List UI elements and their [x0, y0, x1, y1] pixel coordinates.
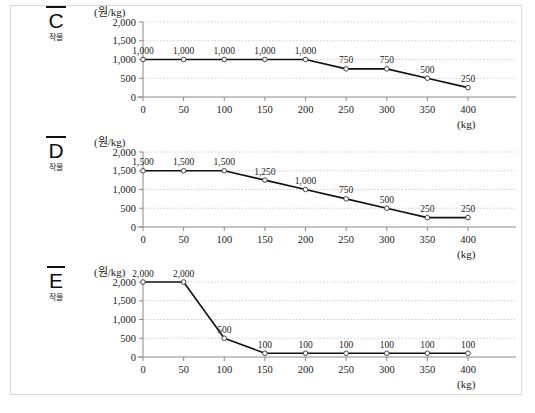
- data-point: [384, 67, 389, 72]
- data-point-label: 1,500: [214, 157, 236, 167]
- x-axis-unit: (kg): [457, 378, 475, 390]
- crop-word: 작물: [21, 163, 91, 173]
- figure-frame: C 작물 (원/kg) 05001,0001,5002,000050100150…: [10, 5, 522, 395]
- plot-area-c: 05001,0001,5002,000050100150200250300350…: [94, 20, 506, 110]
- x-tick-label: 50: [178, 234, 189, 245]
- x-tick-label: 150: [257, 234, 273, 245]
- data-point: [222, 336, 227, 341]
- data-point-label: 100: [298, 340, 313, 350]
- gridlines: [143, 152, 516, 208]
- x-tick-label: 100: [216, 234, 232, 245]
- line-chart-e: 05001,0001,5002,000050100150200250300350…: [94, 280, 506, 410]
- x-tick-label: 200: [298, 104, 314, 115]
- x-tick-label: 50: [178, 104, 189, 115]
- x-tick-label: 0: [140, 234, 145, 245]
- data-series: [143, 60, 468, 88]
- crop-word: 작물: [21, 33, 91, 43]
- data-point-label: 750: [380, 55, 395, 65]
- data-point-label: 250: [461, 74, 476, 84]
- data-point-label: 1,000: [295, 176, 317, 186]
- x-tick-label: 400: [460, 104, 476, 115]
- x-tick-label: 400: [460, 234, 476, 245]
- x-tick-label: 350: [420, 234, 436, 245]
- x-tick-label: 200: [298, 234, 314, 245]
- x-tick-label: 150: [257, 104, 273, 115]
- plot-area-d: 05001,0001,5002,000050100150200250300350…: [94, 150, 506, 240]
- data-point-label: 100: [380, 340, 395, 350]
- data-point: [384, 206, 389, 211]
- data-point: [425, 76, 430, 81]
- data-point: [303, 351, 308, 356]
- point-labels: 1,5001,5001,5001,2501,000750500250250: [132, 157, 475, 214]
- y-tick-label: 1,000: [112, 314, 136, 325]
- data-point-label: 100: [420, 340, 435, 350]
- y-tick-label: 0: [131, 222, 136, 233]
- data-point-label: 1,000: [254, 46, 276, 56]
- plot-area-e: 05001,0001,5002,000050100150200250300350…: [94, 280, 506, 370]
- data-point: [344, 351, 349, 356]
- y-tick-label: 500: [120, 73, 136, 84]
- data-point: [344, 67, 349, 72]
- data-point-label: 250: [461, 204, 476, 214]
- data-point-label: 500: [217, 325, 232, 335]
- data-point: [466, 215, 471, 220]
- data-point: [384, 351, 389, 356]
- data-point: [425, 351, 430, 356]
- data-point: [181, 57, 186, 62]
- gridlines: [143, 282, 516, 338]
- data-point-label: 1,000: [132, 46, 154, 56]
- x-tick-label: 100: [216, 364, 232, 375]
- x-tick-label: 350: [420, 364, 436, 375]
- x-axis-unit: (kg): [457, 248, 475, 260]
- line-chart-c: 05001,0001,5002,000050100150200250300350…: [94, 20, 506, 150]
- data-point: [181, 168, 186, 173]
- x-tick-label: 300: [379, 364, 395, 375]
- crop-label-e: E 작물: [21, 266, 91, 303]
- x-tick-label: 200: [298, 364, 314, 375]
- data-point: [141, 168, 146, 173]
- data-point: [222, 57, 227, 62]
- data-point-label: 500: [420, 65, 435, 75]
- x-axis-unit: (kg): [457, 118, 475, 130]
- x-tick-label: 100: [216, 104, 232, 115]
- data-point-label: 1,500: [173, 157, 195, 167]
- y-tick-label: 0: [131, 92, 136, 103]
- y-tick-label: 500: [120, 203, 136, 214]
- x-tick-label: 300: [379, 234, 395, 245]
- x-tick-label: 250: [338, 104, 354, 115]
- y-tick-label: 1,500: [112, 295, 136, 306]
- data-point-label: 1,000: [173, 46, 195, 56]
- x-tick-label: 350: [420, 104, 436, 115]
- y-tick-label: 0: [131, 352, 136, 363]
- x-tick-label: 250: [338, 234, 354, 245]
- data-point-label: 1,500: [132, 157, 154, 167]
- tick-labels: 05001,0001,5002,000050100150200250300350…: [112, 277, 476, 375]
- x-tick-label: 300: [379, 104, 395, 115]
- data-point-label: 1,000: [214, 46, 236, 56]
- data-point: [181, 280, 186, 285]
- data-point-label: 750: [339, 55, 354, 65]
- gridlines: [143, 22, 516, 78]
- crop-word: 작물: [21, 293, 91, 303]
- data-point-label: 100: [461, 340, 476, 350]
- line-chart-d: 05001,0001,5002,000050100150200250300350…: [94, 150, 506, 280]
- data-point-label: 100: [339, 340, 354, 350]
- data-point: [466, 85, 471, 90]
- tick-labels: 05001,0001,5002,000050100150200250300350…: [112, 147, 476, 245]
- data-point: [141, 280, 146, 285]
- data-point: [222, 168, 227, 173]
- y-tick-label: 1,000: [112, 184, 136, 195]
- x-tick-label: 250: [338, 364, 354, 375]
- y-tick-label: 500: [120, 333, 136, 344]
- data-point: [466, 351, 471, 356]
- data-point: [263, 351, 268, 356]
- y-tick-label: 2,000: [112, 147, 136, 158]
- data-point-label: 250: [420, 204, 435, 214]
- data-point: [425, 215, 430, 220]
- x-tick-label: 150: [257, 364, 273, 375]
- crop-letter: D: [46, 136, 65, 162]
- axes: [137, 282, 516, 361]
- figure-page: C 작물 (원/kg) 05001,0001,5002,000050100150…: [0, 0, 535, 413]
- data-point-label: 500: [380, 195, 395, 205]
- y-tick-label: 1,500: [112, 35, 136, 46]
